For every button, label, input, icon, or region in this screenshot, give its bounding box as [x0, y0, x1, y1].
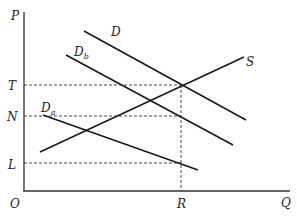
price-label-N: N	[6, 110, 18, 124]
origin-label: O	[10, 197, 20, 211]
curve-label-Db: Db	[73, 45, 89, 61]
x-axis-label: Q	[281, 196, 291, 210]
curve-label-Da-main: D	[40, 101, 51, 115]
price-label-T: T	[8, 79, 17, 93]
demand-curve-Da	[43, 115, 198, 170]
supply-curve-S	[40, 57, 244, 152]
quantity-label-R: R	[176, 197, 186, 211]
curve-label-S: S	[246, 55, 254, 69]
demand-curve-D	[84, 31, 246, 120]
supply-demand-diagram: P Q O T N L R D Db Da S	[0, 0, 297, 221]
curve-label-Da-sub: a	[51, 108, 56, 117]
curve-label-Da: Da	[40, 101, 56, 117]
price-label-L: L	[7, 158, 16, 172]
curve-label-Db-sub: b	[84, 52, 89, 61]
y-axis-label: P	[10, 9, 20, 23]
curve-label-Db-main: D	[73, 45, 84, 59]
curve-label-D: D	[110, 25, 121, 39]
